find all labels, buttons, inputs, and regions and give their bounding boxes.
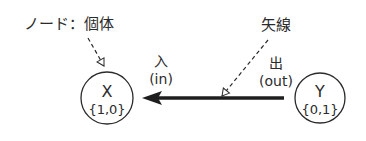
- node-annotation-label: ノード：個体: [24, 15, 114, 33]
- node-x-values: {1,0}: [88, 102, 125, 117]
- out-label: 出: [269, 55, 283, 71]
- node-y-values: {0,1}: [301, 102, 338, 117]
- in-label-en: (in): [149, 71, 173, 87]
- edge-y-to-x: [142, 91, 284, 105]
- diagram-canvas: ノード：個体 矢線 X {1,0} Y {0,1} 入 (in) 出 (out): [0, 0, 366, 141]
- node-x-name: X: [102, 82, 113, 101]
- edge-annotation-label: 矢線: [261, 16, 291, 34]
- in-label: 入: [154, 53, 168, 69]
- out-label-en: (out): [259, 73, 293, 89]
- node-annotation-dashed-arrow: [88, 38, 104, 66]
- node-y-name: Y: [314, 82, 325, 101]
- node-x: X {1,0}: [81, 72, 133, 124]
- node-y: Y {0,1}: [295, 73, 345, 123]
